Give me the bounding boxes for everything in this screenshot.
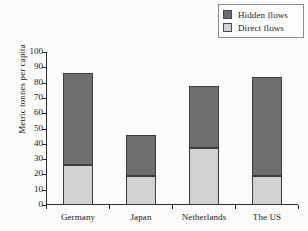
chart-legend: Hidden flows Direct flows — [218, 4, 304, 38]
x-axis-category-label: Japan — [131, 212, 152, 222]
y-axis-tick-label: 50 — [34, 123, 43, 134]
legend-item-direct-flows: Direct flows — [223, 21, 299, 34]
y-axis-tick-label: 10 — [34, 184, 43, 195]
y-axis-tick-label: 20 — [34, 168, 43, 179]
y-axis-tick-label: 0 — [39, 199, 44, 210]
bar-segment-hidden-flows — [252, 77, 282, 176]
x-axis-tick-mark — [235, 205, 236, 209]
bar-segment-direct-flows — [189, 148, 219, 205]
stacked-bar-chart: Hidden flows Direct flows Metric tonnes … — [0, 0, 308, 231]
bar-segment-hidden-flows — [126, 135, 156, 176]
bar-segment-direct-flows — [126, 176, 156, 205]
bar-segment-direct-flows — [252, 176, 282, 205]
x-axis-tick-mark — [298, 205, 299, 209]
legend-swatch-icon-hidden-flows — [223, 10, 232, 19]
y-axis-tick-label: 90 — [34, 61, 43, 72]
x-axis-tick-mark — [172, 205, 173, 209]
legend-item-hidden-flows: Hidden flows — [223, 8, 299, 21]
bar-segment-direct-flows — [63, 165, 93, 205]
x-axis-category-label: Germany — [61, 212, 95, 222]
bar-group-japan: Japan — [126, 52, 156, 205]
x-axis-tick-mark — [46, 205, 47, 209]
bar-group-germany: Germany — [63, 52, 93, 205]
y-axis-tick-label: 60 — [34, 107, 43, 118]
x-axis-tick-mark — [109, 205, 110, 209]
plot-area: 0102030405060708090100 GermanyJapanNethe… — [46, 52, 298, 205]
y-axis-line — [46, 52, 47, 205]
y-axis-title: Metric tonnes per capita — [17, 14, 27, 164]
bar-segment-hidden-flows — [189, 86, 219, 148]
y-axis-tick-label: 30 — [34, 153, 43, 164]
y-axis-tick-label: 40 — [34, 138, 43, 149]
legend-swatch-icon-direct-flows — [223, 23, 232, 32]
y-axis-tick-label: 70 — [34, 92, 43, 103]
y-axis-tick-label: 80 — [34, 77, 43, 88]
bar-group-netherlands: Netherlands — [189, 52, 219, 205]
y-axis-tick-label: 100 — [30, 46, 44, 57]
x-axis-category-label: The US — [253, 212, 281, 222]
x-axis-category-label: Netherlands — [182, 212, 227, 222]
legend-label-hidden-flows: Hidden flows — [238, 10, 288, 20]
bar-segment-hidden-flows — [63, 73, 93, 165]
legend-label-direct-flows: Direct flows — [238, 23, 284, 33]
bar-group-the-us: The US — [252, 52, 282, 205]
